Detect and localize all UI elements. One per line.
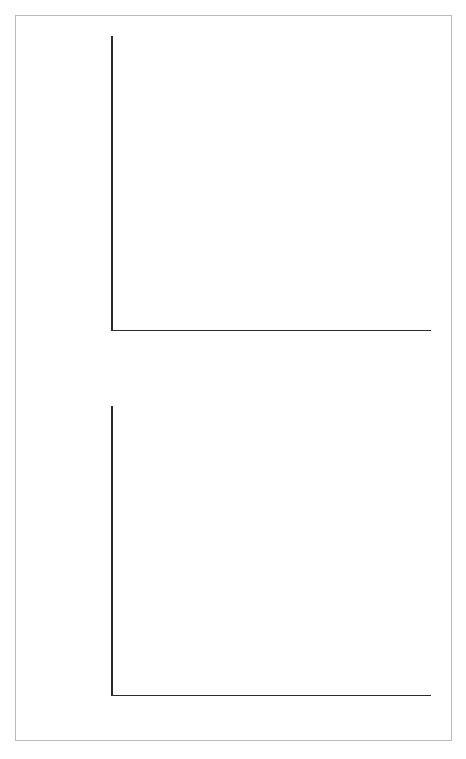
plot-area-top [111,36,431,331]
chart-panel-top [16,16,453,361]
chart-panel-bottom [16,361,453,742]
y-axis-line-bottom [111,406,113,696]
x-axis-line-bottom [111,695,431,697]
plot-area-bottom [111,406,431,696]
y-axis-line-top [111,36,113,331]
x-axis-line-top [111,330,431,332]
figure-frame [15,15,452,741]
